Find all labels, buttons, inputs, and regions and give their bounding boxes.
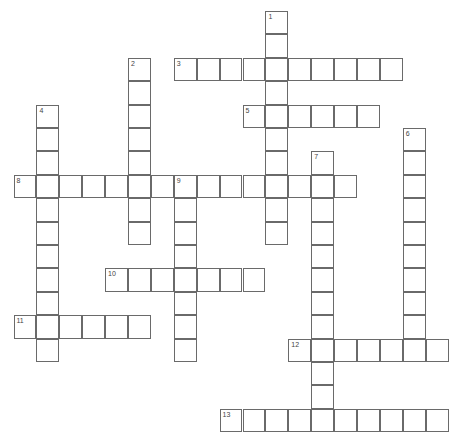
crossword-cell[interactable] (220, 58, 243, 81)
crossword-cell[interactable] (82, 315, 105, 338)
crossword-cell[interactable] (311, 105, 334, 128)
crossword-cell[interactable] (151, 175, 174, 198)
crossword-cell[interactable]: 9 (174, 175, 197, 198)
crossword-cell[interactable] (403, 245, 426, 268)
crossword-cell[interactable]: 1 (265, 11, 288, 34)
crossword-cell[interactable]: 10 (105, 268, 128, 291)
crossword-cell[interactable] (82, 175, 105, 198)
crossword-cell[interactable] (36, 292, 59, 315)
crossword-cell[interactable] (403, 175, 426, 198)
crossword-cell[interactable] (334, 409, 357, 432)
crossword-cell[interactable] (288, 409, 311, 432)
crossword-cell[interactable] (243, 175, 266, 198)
crossword-cell[interactable] (311, 58, 334, 81)
crossword-cell[interactable] (105, 315, 128, 338)
crossword-cell[interactable] (243, 409, 266, 432)
crossword-cell[interactable] (36, 222, 59, 245)
crossword-cell[interactable] (128, 128, 151, 151)
crossword-cell[interactable] (151, 268, 174, 291)
crossword-cell[interactable] (197, 58, 220, 81)
crossword-cell[interactable] (265, 198, 288, 221)
crossword-cell[interactable] (426, 409, 449, 432)
crossword-cell[interactable] (174, 198, 197, 221)
crossword-cell[interactable]: 8 (14, 175, 37, 198)
crossword-cell[interactable] (36, 268, 59, 291)
crossword-cell[interactable] (311, 385, 334, 408)
crossword-cell[interactable] (403, 292, 426, 315)
crossword-cell[interactable] (265, 81, 288, 104)
crossword-cell[interactable] (174, 245, 197, 268)
crossword-cell[interactable] (36, 128, 59, 151)
crossword-cell[interactable] (403, 151, 426, 174)
crossword-cell[interactable] (334, 58, 357, 81)
crossword-cell[interactable] (288, 105, 311, 128)
crossword-cell[interactable] (36, 175, 59, 198)
crossword-cell[interactable] (334, 339, 357, 362)
crossword-cell[interactable] (174, 222, 197, 245)
crossword-cell[interactable] (380, 339, 403, 362)
crossword-cell[interactable] (128, 151, 151, 174)
crossword-cell[interactable] (357, 58, 380, 81)
crossword-cell[interactable] (403, 315, 426, 338)
crossword-cell[interactable] (311, 268, 334, 291)
crossword-cell[interactable]: 2 (128, 58, 151, 81)
crossword-cell[interactable] (243, 58, 266, 81)
crossword-cell[interactable] (334, 105, 357, 128)
crossword-cell[interactable] (265, 175, 288, 198)
crossword-cell[interactable] (357, 105, 380, 128)
crossword-cell[interactable] (265, 105, 288, 128)
crossword-cell[interactable]: 5 (243, 105, 266, 128)
crossword-cell[interactable] (380, 58, 403, 81)
crossword-cell[interactable]: 6 (403, 128, 426, 151)
crossword-cell[interactable] (174, 268, 197, 291)
crossword-cell[interactable]: 13 (220, 409, 243, 432)
crossword-cell[interactable]: 4 (36, 105, 59, 128)
crossword-cell[interactable] (311, 222, 334, 245)
crossword-cell[interactable] (311, 245, 334, 268)
crossword-cell[interactable] (426, 339, 449, 362)
crossword-cell[interactable] (220, 268, 243, 291)
crossword-cell[interactable] (128, 105, 151, 128)
crossword-cell[interactable] (128, 198, 151, 221)
crossword-cell[interactable] (265, 58, 288, 81)
crossword-cell[interactable] (36, 198, 59, 221)
crossword-cell[interactable] (265, 128, 288, 151)
crossword-cell[interactable] (311, 339, 334, 362)
crossword-cell[interactable] (403, 409, 426, 432)
crossword-cell[interactable] (311, 175, 334, 198)
crossword-cell[interactable] (128, 268, 151, 291)
crossword-cell[interactable] (105, 175, 128, 198)
crossword-cell[interactable] (265, 34, 288, 57)
crossword-cell[interactable] (197, 175, 220, 198)
crossword-cell[interactable]: 11 (14, 315, 37, 338)
crossword-cell[interactable] (403, 222, 426, 245)
crossword-cell[interactable] (265, 409, 288, 432)
crossword-cell[interactable]: 12 (288, 339, 311, 362)
crossword-cell[interactable] (59, 175, 82, 198)
crossword-cell[interactable] (311, 362, 334, 385)
crossword-cell[interactable] (174, 339, 197, 362)
crossword-cell[interactable] (311, 409, 334, 432)
crossword-cell[interactable] (311, 198, 334, 221)
crossword-cell[interactable] (220, 175, 243, 198)
crossword-cell[interactable] (197, 268, 220, 291)
crossword-cell[interactable] (311, 315, 334, 338)
crossword-cell[interactable] (288, 58, 311, 81)
crossword-cell[interactable] (380, 409, 403, 432)
crossword-cell[interactable] (357, 409, 380, 432)
crossword-cell[interactable]: 7 (311, 151, 334, 174)
crossword-cell[interactable] (36, 245, 59, 268)
crossword-cell[interactable] (334, 175, 357, 198)
crossword-cell[interactable] (403, 339, 426, 362)
crossword-cell[interactable] (128, 315, 151, 338)
crossword-cell[interactable] (128, 222, 151, 245)
crossword-cell[interactable] (403, 268, 426, 291)
crossword-cell[interactable] (59, 315, 82, 338)
crossword-cell[interactable] (128, 175, 151, 198)
crossword-cell[interactable] (311, 292, 334, 315)
crossword-cell[interactable] (174, 315, 197, 338)
crossword-cell[interactable] (36, 339, 59, 362)
crossword-cell[interactable] (357, 339, 380, 362)
crossword-cell[interactable] (36, 151, 59, 174)
crossword-cell[interactable]: 3 (174, 58, 197, 81)
